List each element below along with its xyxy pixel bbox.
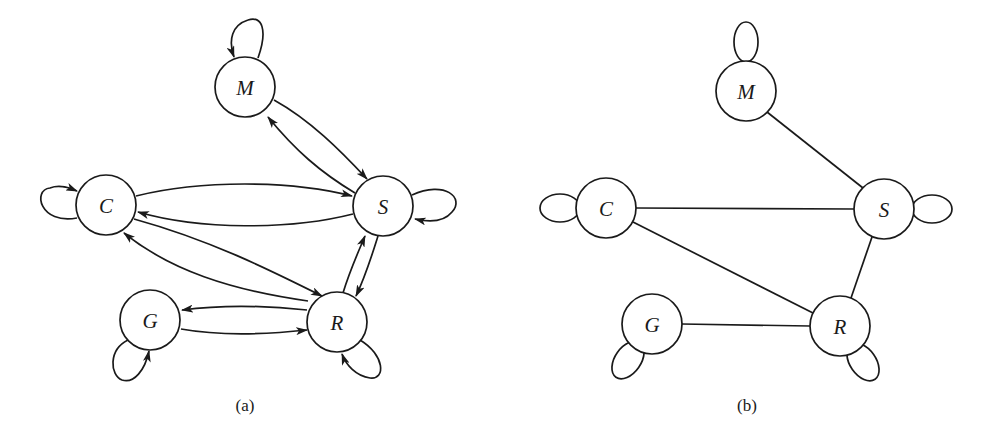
edge-M-M-loop [734, 22, 758, 62]
edge-S-C [138, 212, 353, 226]
node-label: S [378, 195, 389, 219]
edge-M-M-loop [231, 19, 263, 58]
edge-M-S [767, 112, 863, 188]
node-label: R [330, 311, 344, 335]
edge-C-C-loop [540, 194, 580, 222]
edge-S-S-loop [912, 195, 952, 223]
edge-C-S [636, 208, 854, 209]
node-label: R [833, 315, 847, 339]
edge-S-S-loop [412, 189, 456, 221]
node-label: C [599, 197, 614, 221]
node-label: M [736, 80, 756, 104]
node-label: S [879, 198, 890, 222]
edge-G-R [181, 329, 307, 334]
graph-figure: M C S G R M C S G R [0, 0, 988, 438]
node-label: G [644, 313, 659, 337]
panel-a-caption: (a) [236, 396, 255, 416]
edge-S-R [356, 236, 378, 296]
edge-C-C-loop [41, 186, 77, 219]
edge-S-M [268, 117, 355, 193]
edge-R-G [182, 306, 307, 310]
edge-S-R [851, 237, 872, 298]
edge-C-S [136, 184, 352, 196]
node-label: M [235, 76, 255, 100]
node-label: C [99, 194, 114, 218]
edge-G-R [682, 324, 810, 326]
panel-b-caption: (b) [737, 396, 757, 416]
node-label: G [142, 309, 157, 333]
